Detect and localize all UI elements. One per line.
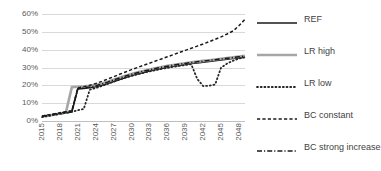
chart-legend: REFLR highLR lowBC constantBC strong inc… <box>256 12 378 164</box>
y-tick-label: 60% <box>0 10 38 18</box>
x-axis: 2015201820212024202720302033203620392042… <box>42 123 245 169</box>
x-tick-label: 2024 <box>92 123 100 141</box>
legend-label: LR high <box>304 46 335 56</box>
series-line-bc-constant <box>42 19 245 116</box>
x-tick-label: 2042 <box>199 123 207 141</box>
y-tick-label: 10% <box>0 99 38 107</box>
x-tick-label: 2021 <box>74 123 82 141</box>
legend-item-bc-strong-increase[interactable]: BC strong increase <box>256 140 378 154</box>
legend-swatch-icon <box>256 142 298 152</box>
x-tick-label: 2030 <box>128 123 136 141</box>
y-tick-label: 30% <box>0 64 38 72</box>
legend-label: REF <box>304 14 322 24</box>
legend-label: BC constant <box>304 110 353 120</box>
x-tick-label: 2027 <box>110 123 118 141</box>
legend-label: LR low <box>304 78 332 88</box>
x-tick-label: 2039 <box>181 123 189 141</box>
legend-item-lr-low[interactable]: LR low <box>256 76 378 90</box>
x-tick-label: 2015 <box>38 123 46 141</box>
x-tick-label: 2018 <box>56 123 64 141</box>
legend-swatch-icon <box>256 46 298 56</box>
x-tick-label: 2045 <box>217 123 225 141</box>
x-tick-label: 2036 <box>163 123 171 141</box>
y-tick-label: 40% <box>0 46 38 54</box>
legend-swatch-icon <box>256 14 298 24</box>
series-layer <box>42 14 245 121</box>
x-tick-label: 2033 <box>145 123 153 141</box>
y-tick-label: 20% <box>0 81 38 89</box>
plot-area <box>42 14 245 121</box>
y-tick-label: 0% <box>0 117 38 125</box>
legend-label: BC strong increase <box>304 142 381 152</box>
legend-item-bc-constant[interactable]: BC constant <box>256 108 378 122</box>
legend-item-lr-high[interactable]: LR high <box>256 44 378 58</box>
legend-item-ref[interactable]: REF <box>256 12 378 26</box>
x-tick-label: 2048 <box>235 123 243 141</box>
y-tick-label: 50% <box>0 28 38 36</box>
legend-swatch-icon <box>256 110 298 120</box>
legend-swatch-icon <box>256 78 298 88</box>
